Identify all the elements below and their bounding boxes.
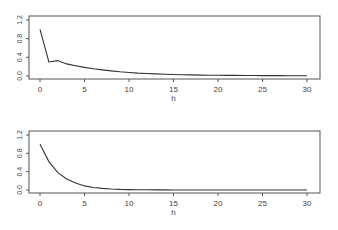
- plot-frame: [29, 131, 320, 193]
- x-tick-label: 30: [303, 85, 312, 94]
- chart-top: 0510152025300.00.40.81.2h: [16, 15, 320, 103]
- y-tick-label: 0.8: [16, 148, 23, 158]
- x-tick-label: 10: [125, 199, 134, 208]
- x-tick-label: 25: [258, 199, 267, 208]
- x-tick-label: 15: [169, 199, 178, 208]
- x-tick-label: 15: [169, 85, 178, 94]
- x-tick-label: 0: [38, 199, 43, 208]
- x-tick-label: 10: [125, 85, 134, 94]
- chart-bottom: 0510152025300.00.40.81.2h: [16, 130, 320, 217]
- x-tick-label: 5: [82, 199, 87, 208]
- data-line: [40, 29, 307, 75]
- x-tick-label: 0: [38, 85, 43, 94]
- y-tick-label: 0.4: [16, 52, 23, 62]
- x-tick-label: 25: [258, 85, 267, 94]
- y-tick-label: 1.2: [16, 15, 23, 25]
- y-tick-label: 0.8: [16, 34, 23, 44]
- plot-frame: [29, 16, 320, 79]
- y-tick-label: 0.0: [16, 185, 23, 195]
- y-tick-label: 0.0: [16, 71, 23, 81]
- figure: 0510152025300.00.40.81.2h 0510152025300.…: [0, 0, 338, 230]
- data-line: [40, 144, 307, 190]
- x-tick-label: 30: [303, 199, 312, 208]
- x-tick-label: 5: [82, 85, 87, 94]
- y-tick-label: 1.2: [16, 130, 23, 140]
- x-tick-label: 20: [214, 199, 223, 208]
- y-tick-label: 0.4: [16, 167, 23, 177]
- x-tick-label: 20: [214, 85, 223, 94]
- x-axis-label: h: [171, 208, 175, 217]
- x-axis-label: h: [171, 94, 175, 103]
